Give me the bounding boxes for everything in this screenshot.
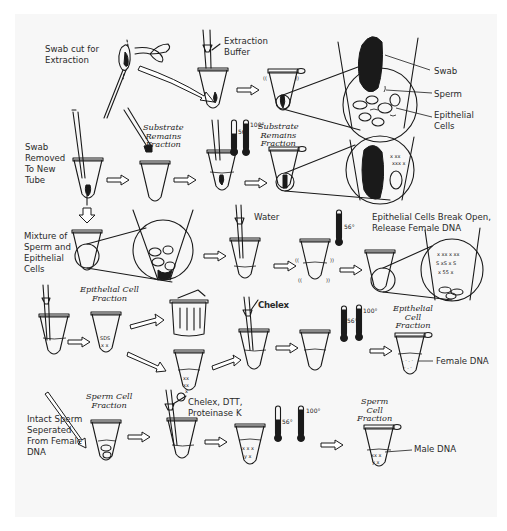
label-epithelial-break: Epithelial Cells Break Open, Release Fem… <box>372 212 491 234</box>
svg-text:SDS: SDS <box>100 335 110 341</box>
svg-text:S xS x S: S xS x S <box>436 260 456 266</box>
label-mixture: Mixture of Sperm and Epithelial Cells <box>24 231 71 275</box>
magnified-circle-icon <box>133 210 193 280</box>
label-epithelial-fraction-2: Epithelial Cell Fraction <box>393 304 433 330</box>
svg-text:x 55 x: x 55 x <box>438 269 454 275</box>
svg-text:)): )) <box>330 257 334 263</box>
svg-text:· . ·: · . · <box>404 364 412 370</box>
svg-text:x x: x x <box>101 342 109 348</box>
svg-text:)): )) <box>295 75 299 81</box>
label-epithelial-fraction-1: Epithelial Cell Fraction <box>80 285 139 302</box>
magnified-circle-icon: x xx x xxS xS x S x 55 x <box>421 228 483 301</box>
scissors-icon <box>135 44 170 62</box>
thermometer-icon <box>336 210 343 246</box>
swab-in-tube <box>72 110 103 198</box>
tube-icon <box>39 314 69 354</box>
thermometer-icon <box>231 120 238 156</box>
label-sperm: Sperm <box>434 89 462 100</box>
svg-text:56°: 56° <box>282 418 293 425</box>
svg-text:56°: 56° <box>344 223 355 230</box>
label-swab-cut: Swab cut for Extraction <box>45 44 99 66</box>
label-substrate-remains-2: Substrate Remains Fraction <box>258 122 299 148</box>
label-male-dna: Male DNA <box>414 444 456 455</box>
svg-text:100°: 100° <box>306 407 320 414</box>
label-female-dna: Female DNA <box>436 356 489 367</box>
label-extraction-buffer: Extraction Buffer <box>224 36 268 58</box>
tube-icon <box>300 239 330 279</box>
tube-icon <box>230 238 260 278</box>
magnified-circle-icon <box>338 37 418 142</box>
tube-icon <box>364 425 401 467</box>
label-sperm-fraction-2: Sperm Cell Fraction <box>357 397 392 423</box>
svg-text:y x: y x <box>244 453 252 460</box>
svg-text:)): )) <box>326 277 330 283</box>
svg-text:. · . ·: . · . · <box>402 357 414 363</box>
swab-icon <box>104 40 130 118</box>
svg-text:xx x: xx x <box>371 452 382 458</box>
tube-icon <box>239 329 269 369</box>
svg-text:x xx: x xx <box>390 153 401 159</box>
svg-text:((: (( <box>298 277 302 283</box>
thermometer-icon <box>298 406 305 442</box>
svg-text:x x x: x x x <box>242 445 254 451</box>
trash-can-icon <box>170 290 208 336</box>
svg-text:x xx x xx: x xx x xx <box>437 251 460 257</box>
svg-text:xxx x: xxx x <box>392 160 405 166</box>
pipette-icon <box>203 30 212 68</box>
label-intact-sperm: Intact Sperm Seperated From Female DNA <box>27 414 82 458</box>
svg-text:56°: 56° <box>347 317 358 324</box>
label-substrate-remains-1: Substrate Remains Fraction <box>143 123 184 149</box>
label-swab: Swab <box>434 66 457 77</box>
svg-text:xx: xx <box>183 375 189 381</box>
arrow-icon <box>127 352 166 372</box>
label-water: Water <box>254 212 279 223</box>
label-sperm-fraction-1: Sperm Cell Fraction <box>86 392 132 409</box>
svg-text:((: (( <box>295 257 299 263</box>
svg-text:56°: 56° <box>238 128 249 135</box>
thermometer-icon <box>243 120 250 156</box>
label-reagents: Chelex, DTT, Proteinase K <box>188 397 243 419</box>
label-epithelial-cells: Epithelial Cells <box>434 110 474 132</box>
thermometer-icon <box>275 406 282 442</box>
label-chelex: Chelex <box>258 300 289 311</box>
svg-text:((: (( <box>263 75 267 81</box>
magnified-circle-icon: x xxxxx x <box>346 136 414 204</box>
svg-text:y x: y x <box>372 459 380 466</box>
svg-text:x: x <box>185 388 188 394</box>
tube-icon <box>140 161 170 201</box>
svg-text:100°: 100° <box>363 307 377 314</box>
label-swab-removed: Swab Removed To New Tube <box>25 142 65 186</box>
